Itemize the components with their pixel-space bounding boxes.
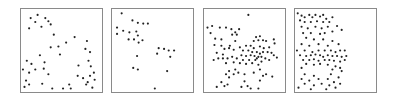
data-point (305, 37, 307, 39)
data-point (254, 59, 256, 61)
data-point (142, 23, 144, 25)
data-point (210, 32, 212, 34)
data-point (313, 58, 315, 60)
data-point (334, 65, 336, 67)
data-point (265, 40, 267, 42)
data-point (216, 86, 218, 88)
data-point (268, 59, 270, 61)
data-point (253, 47, 255, 49)
data-point (310, 88, 312, 90)
data-point (223, 85, 225, 87)
data-point (264, 57, 266, 59)
data-point (28, 72, 30, 74)
data-point (339, 67, 341, 69)
data-point (251, 51, 253, 53)
data-point (219, 26, 221, 28)
data-point (213, 44, 215, 46)
data-point (240, 54, 242, 56)
data-point (229, 45, 231, 47)
data-point (220, 45, 222, 47)
data-point (214, 38, 216, 40)
data-point (236, 57, 238, 59)
data-point (26, 60, 28, 62)
data-point (43, 61, 45, 63)
data-point (230, 28, 232, 30)
data-point (225, 62, 227, 64)
data-point (233, 73, 235, 75)
data-point (322, 14, 324, 16)
data-point (234, 40, 236, 42)
data-point (334, 51, 336, 53)
data-point (333, 81, 335, 83)
data-point (313, 75, 315, 77)
data-point (131, 19, 133, 21)
data-point (147, 23, 149, 25)
data-point (263, 47, 265, 49)
data-point (89, 51, 91, 53)
data-point (319, 63, 321, 65)
data-point (317, 49, 319, 51)
scatter-panel-2 (111, 8, 194, 93)
data-point (331, 30, 333, 32)
data-point (74, 36, 76, 38)
data-point (310, 21, 312, 23)
data-point (297, 12, 299, 14)
scatter-panel-1 (20, 8, 103, 93)
scatter-plot-2 (112, 9, 193, 92)
data-point (333, 60, 335, 62)
data-point (173, 49, 175, 51)
data-point (271, 76, 273, 78)
data-point (87, 60, 89, 62)
data-point (327, 64, 329, 66)
data-point (57, 45, 59, 47)
data-point (136, 55, 138, 57)
data-point (338, 76, 340, 78)
scatter-panel-4 (294, 8, 377, 93)
data-point (260, 56, 262, 58)
data-point (316, 20, 318, 22)
data-point (308, 14, 310, 16)
data-point (319, 54, 321, 56)
data-point (168, 49, 170, 51)
data-point (268, 46, 270, 48)
data-point (90, 65, 92, 67)
data-point (314, 26, 316, 28)
data-point (245, 45, 247, 47)
data-point (257, 64, 259, 66)
data-point (322, 38, 324, 40)
data-point (250, 87, 252, 89)
data-point (141, 39, 143, 41)
data-point (321, 27, 323, 29)
data-point (339, 60, 341, 62)
data-point (262, 39, 264, 41)
data-point (59, 53, 61, 55)
data-point (341, 29, 343, 31)
data-point (128, 38, 130, 40)
data-point (213, 59, 215, 61)
data-point (236, 34, 238, 36)
data-point (317, 60, 319, 62)
data-point (259, 35, 261, 37)
data-point (341, 70, 343, 72)
data-point (242, 59, 244, 61)
data-point (222, 57, 224, 59)
data-point (313, 64, 315, 66)
data-point (228, 70, 230, 72)
data-point (223, 48, 225, 50)
data-point (256, 51, 258, 53)
data-point (302, 32, 304, 34)
data-point (339, 83, 341, 85)
data-point (89, 75, 91, 77)
data-point (297, 87, 299, 89)
data-point (324, 32, 326, 34)
data-point (310, 32, 312, 34)
data-point (138, 42, 140, 44)
data-point (30, 63, 32, 65)
data-point (311, 51, 313, 53)
scatter-panel-3 (203, 8, 286, 93)
data-point (247, 14, 249, 16)
data-point (77, 64, 79, 66)
data-point (242, 49, 244, 51)
data-point (216, 52, 218, 54)
data-point (257, 39, 259, 41)
